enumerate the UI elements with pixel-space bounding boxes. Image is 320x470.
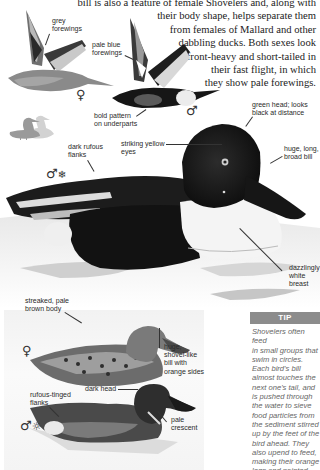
male-symbol-glyph: ♂: [20, 418, 32, 433]
label-line: dark rufous: [68, 143, 103, 151]
label-line: bill with: [164, 359, 204, 367]
label-dark-rufous-flanks: dark rufous flanks: [68, 143, 103, 159]
label-line: pale blue: [92, 41, 122, 49]
label-line: striking yellow: [121, 140, 165, 148]
label-line: flanks: [30, 399, 71, 407]
flying-male-illustration: [112, 16, 232, 108]
label-line: eyes: [121, 148, 165, 156]
tip-body: Shovelers often feed in small groups tha…: [250, 324, 320, 470]
label-line: rufous-tinged: [30, 391, 71, 399]
tip-line: up by the feet of the: [252, 429, 320, 438]
tip-line: Shovelers often feed: [252, 327, 320, 346]
label-line: forewings: [92, 49, 122, 57]
tip-line: Each bird's bill: [252, 364, 320, 373]
tip-box: TIP Shovelers often feed in small groups…: [250, 312, 320, 470]
label-line: shovel-like: [164, 351, 204, 359]
label-rufous-tinged-flanks: rufous-tinged flanks: [30, 391, 71, 407]
tip-line: in small groups that: [252, 346, 320, 355]
label-line: broad bill: [284, 153, 319, 161]
tip-line: also upend to feed,: [252, 448, 320, 457]
tip-line: bird ahead. They: [252, 439, 320, 448]
label-line: crescent: [171, 424, 197, 432]
label-line: grey: [52, 17, 82, 25]
male-symbol: ♂☼: [20, 419, 42, 432]
tip-line: next one's tail, and: [252, 383, 320, 392]
leader-line: [118, 389, 138, 390]
male-symbol: ♂: [186, 104, 198, 117]
winter-snowflake-icon: ❄: [58, 169, 66, 180]
label-pale-crescent: pale crescent: [171, 416, 197, 432]
label-streaked-body: streaked, pale brown body: [25, 297, 69, 313]
label-line: green head; looks: [252, 101, 308, 109]
tip-line: swim in circles.: [252, 355, 320, 364]
leader-line: [136, 109, 146, 117]
label-line: huge,: [164, 343, 204, 351]
label-line: pale: [171, 416, 197, 424]
summer-sun-icon: ☼: [32, 420, 42, 433]
female-symbol: ♀: [76, 88, 86, 101]
label-line: streaked, pale: [25, 297, 69, 305]
tip-line: almost touches the: [252, 373, 320, 382]
tip-line: is pushed through: [252, 392, 320, 401]
label-line: huge, long,: [284, 145, 319, 153]
label-line: breast: [289, 280, 320, 288]
label-line: brown body: [25, 305, 69, 313]
label-line: dazzlingly: [289, 264, 320, 272]
label-dark-head: dark head: [85, 385, 116, 393]
tip-line: food particles from: [252, 411, 320, 420]
tip-header: TIP: [250, 312, 320, 324]
label-grey-forewings: grey forewings: [52, 17, 82, 33]
label-white-breast: dazzlingly white breast: [289, 264, 320, 289]
tip-line: legs and pointed: [252, 466, 320, 470]
label-line: forewings: [52, 25, 82, 33]
tip-line: making their orange: [252, 457, 320, 466]
male-symbol-glyph: ♂: [46, 166, 58, 181]
label-pale-blue-forewings: pale blue forewings: [92, 41, 122, 57]
label-line: white: [289, 272, 320, 280]
label-green-head: green head; looks black at distance: [252, 101, 308, 117]
label-line: flanks: [68, 151, 103, 159]
tip-line: the sediment stirred: [252, 420, 320, 429]
female-symbol: ♀: [22, 344, 32, 357]
leader-line: [159, 328, 160, 348]
leader-line: [166, 144, 222, 145]
label-yellow-eyes: striking yellow eyes: [121, 140, 165, 156]
tip-line: the water to sieve: [252, 401, 320, 410]
label-line: black at distance: [252, 109, 308, 117]
label-line: orange sides: [164, 368, 204, 376]
male-symbol: ♂❄: [46, 167, 66, 180]
label-huge-bill: huge, long, broad bill: [284, 145, 319, 161]
label-shovel-bill: huge, shovel-like bill with orange sides: [164, 343, 204, 376]
